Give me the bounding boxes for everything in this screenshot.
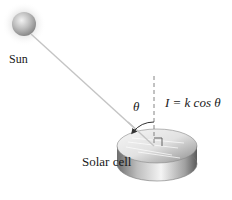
solar-cell-label: Solar cell bbox=[82, 154, 131, 170]
sun-sphere-icon bbox=[2, 2, 46, 46]
intensity-formula: I = k cos θ bbox=[165, 95, 221, 111]
sun-label: Sun bbox=[9, 52, 28, 67]
angle-theta-label: θ bbox=[133, 99, 139, 115]
